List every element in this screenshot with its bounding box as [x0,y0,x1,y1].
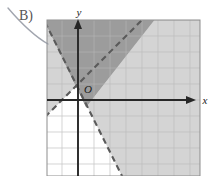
x-axis-label: x [202,94,208,106]
graph-canvas: x y O B) [0,0,217,176]
inequality-graph-figure: x y O B) [0,0,217,176]
problem-label: B) [19,8,33,24]
y-axis-label: y [76,6,82,18]
origin-label: O [84,83,92,95]
